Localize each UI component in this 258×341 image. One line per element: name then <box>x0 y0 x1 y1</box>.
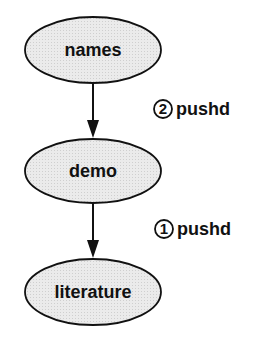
arrowhead-icon <box>87 240 99 258</box>
edge-label-step-1: 1 pushd <box>155 219 231 239</box>
arrowhead-icon <box>87 120 99 138</box>
step-number: 2 <box>159 100 167 117</box>
node-label: names <box>64 40 121 60</box>
edge-label: pushd <box>176 99 230 119</box>
edge-demo-to-literature <box>87 203 99 258</box>
node-literature: literature <box>25 259 161 325</box>
edge-label: pushd <box>177 219 231 239</box>
node-demo: demo <box>25 139 161 203</box>
node-label: literature <box>54 282 131 302</box>
node-label: demo <box>69 161 117 181</box>
edge-names-to-demo <box>87 84 99 138</box>
directory-stack-diagram: names demo literature 2 pushd 1 pushd <box>0 0 258 341</box>
step-number: 1 <box>160 220 168 237</box>
node-names: names <box>25 17 161 83</box>
edge-label-step-2: 2 pushd <box>154 99 230 119</box>
